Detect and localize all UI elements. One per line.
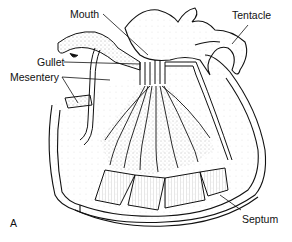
label-gullet: Gullet bbox=[37, 57, 64, 68]
anemone-anatomy-illustration bbox=[0, 0, 292, 242]
label-mouth: Mouth bbox=[70, 9, 99, 20]
label-tentacle: Tentacle bbox=[232, 10, 271, 21]
oral-disc bbox=[58, 32, 140, 70]
label-mesentery: Mesentery bbox=[10, 72, 59, 83]
label-septum: Septum bbox=[242, 214, 278, 225]
panel-letter: A bbox=[10, 218, 17, 229]
